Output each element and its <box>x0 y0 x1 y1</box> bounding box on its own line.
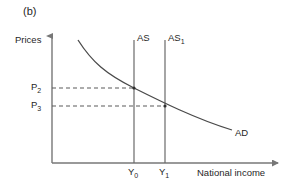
ad-curve <box>78 40 232 130</box>
equilibrium-point-p3y1 <box>163 104 166 107</box>
income-label-y1-subscript: 1 <box>165 172 169 179</box>
as1-curve-label-subscript: 1 <box>181 38 185 45</box>
price-label-p3: P3 <box>31 100 41 112</box>
y-axis-title: Prices <box>15 35 41 45</box>
as-curve-label: AS <box>137 33 150 43</box>
panel-label: (b) <box>23 6 36 17</box>
as1-curve-label-text: AS <box>168 32 181 43</box>
economics-diagram-panel-b: (b) Prices National income AS AS1 AD P2 … <box>0 0 288 188</box>
income-label-y0-subscript: 0 <box>134 172 138 179</box>
price-label-p3-subscript: 3 <box>37 105 41 112</box>
price-label-p2: P2 <box>31 82 41 94</box>
equilibrium-point-p2y0 <box>132 86 135 89</box>
diagram-canvas <box>0 0 288 188</box>
x-axis-title: National income <box>197 168 265 178</box>
ad-curve-label: AD <box>235 128 248 138</box>
income-label-y0: Y0 <box>128 167 138 179</box>
price-label-p2-subscript: 2 <box>37 87 41 94</box>
as1-curve-label: AS1 <box>168 33 185 45</box>
income-label-y1: Y1 <box>159 167 169 179</box>
